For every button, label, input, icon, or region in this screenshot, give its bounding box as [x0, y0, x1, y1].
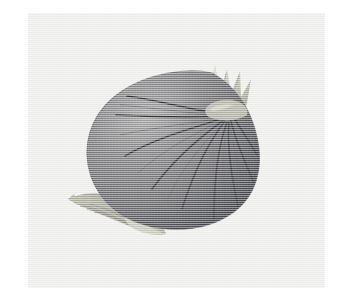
screenshot-canvas: Illustration of a whole onion with dried…: [0, 0, 353, 299]
onion-illustration: [28, 13, 325, 288]
paper-grain: [28, 13, 325, 288]
onion-vector-artwork: [28, 13, 325, 288]
